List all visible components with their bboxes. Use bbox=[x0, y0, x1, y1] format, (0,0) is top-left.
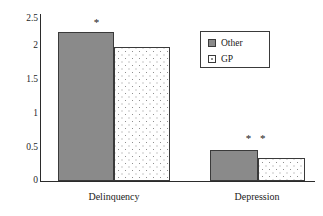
significance-annotation-delinquency: * bbox=[78, 17, 118, 28]
legend-swatch-gp-icon bbox=[208, 55, 216, 63]
legend-label-other: Other bbox=[221, 38, 243, 48]
legend-item-other: Other bbox=[208, 36, 269, 50]
legend-item-gp: GP bbox=[208, 52, 269, 66]
significance-annotation-depression: * * bbox=[232, 133, 282, 144]
legend-label-gp: GP bbox=[221, 54, 233, 64]
x-axis-label-delinquency: Delinquency bbox=[54, 191, 174, 203]
legend: Other GP bbox=[200, 31, 270, 68]
bar-chart: 2.5 2 1.5 1 0.5 0 * * * Delinquency Depr… bbox=[0, 0, 323, 216]
legend-swatch-other-icon bbox=[208, 39, 216, 47]
bar-depression-gp bbox=[258, 158, 305, 181]
x-axis-label-depression: Depression bbox=[202, 191, 312, 203]
bar-depression-other bbox=[210, 150, 258, 181]
bar-delinquency-other bbox=[58, 32, 114, 181]
bar-delinquency-gp bbox=[114, 47, 170, 181]
bars-layer bbox=[0, 0, 323, 216]
